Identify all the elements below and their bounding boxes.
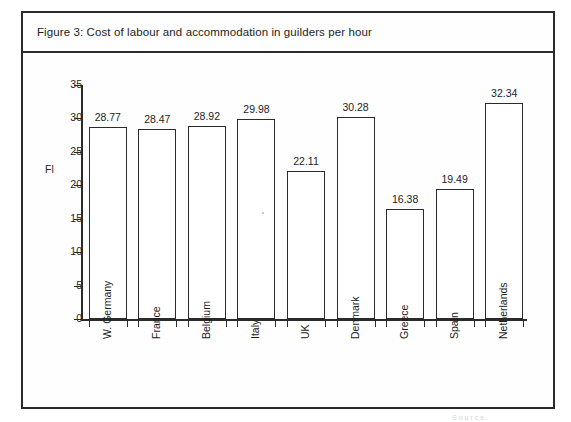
x-tick-mark — [375, 319, 376, 327]
x-category-label: UK — [299, 324, 311, 339]
bar-value-label: 28.47 — [132, 113, 182, 125]
x-category-label: Spain — [448, 312, 460, 339]
x-tick-mark — [176, 319, 177, 327]
bar-value-label: 32.34 — [479, 87, 529, 99]
bar-chart: Fl 05101520253035 28.7728.4728.9229.9822… — [23, 53, 553, 409]
x-tick-mark — [237, 319, 238, 327]
bar[interactable] — [386, 209, 424, 319]
x-tick-mark — [287, 319, 288, 327]
bar-value-label: 28.92 — [182, 110, 232, 122]
x-tick-mark — [485, 319, 486, 327]
bar-value-label: 28.77 — [83, 111, 133, 123]
x-category-label: Belgium — [200, 301, 212, 339]
y-axis-title: Fl — [45, 163, 54, 175]
y-tick-label: 0 — [58, 312, 82, 324]
figure-title-bar: Figure 3: Cost of labour and accommodati… — [23, 13, 553, 53]
scan-artifact-speck — [262, 212, 264, 214]
bar[interactable] — [337, 117, 375, 319]
y-tick-label: 5 — [58, 279, 82, 291]
x-tick-mark — [523, 319, 524, 327]
x-category-label: W. Germany — [101, 281, 113, 339]
y-tick-label: 35 — [58, 78, 82, 90]
x-axis-line — [81, 319, 527, 321]
x-category-label: Netherlands — [497, 282, 509, 339]
bar-value-label: 19.49 — [430, 173, 480, 185]
bar-value-label: 30.28 — [331, 101, 381, 113]
footer-smudge-text: Source — [452, 414, 486, 421]
plot-area: Fl 05101520253035 28.7728.4728.9229.9822… — [23, 53, 553, 409]
bar-value-label: 16.38 — [380, 193, 430, 205]
x-tick-mark — [325, 319, 326, 327]
x-tick-mark — [436, 319, 437, 327]
y-tick-label: 30 — [58, 111, 82, 123]
y-tick-label: 20 — [58, 178, 82, 190]
x-tick-mark — [226, 319, 227, 327]
x-tick-mark — [138, 319, 139, 327]
y-tick-label: 10 — [58, 245, 82, 257]
bar[interactable] — [287, 171, 325, 319]
y-tick-label: 25 — [58, 145, 82, 157]
x-tick-mark — [386, 319, 387, 327]
x-tick-mark — [337, 319, 338, 327]
bar[interactable] — [237, 119, 275, 319]
x-tick-mark — [424, 319, 425, 327]
x-tick-mark — [127, 319, 128, 327]
bar-value-label: 29.98 — [231, 103, 281, 115]
x-tick-mark — [188, 319, 189, 327]
figure-frame: Figure 3: Cost of labour and accommodati… — [21, 11, 555, 409]
x-category-label: Greece — [398, 305, 410, 339]
page-title: Figure 3: Cost of labour and accommodati… — [37, 26, 372, 38]
x-category-label: Italy — [249, 320, 261, 339]
bar[interactable] — [188, 126, 226, 319]
y-tick-label: 15 — [58, 212, 82, 224]
x-tick-mark — [89, 319, 90, 327]
x-category-label: Denmark — [349, 296, 361, 339]
bar-value-label: 22.11 — [281, 155, 331, 167]
x-tick-mark — [474, 319, 475, 327]
bar[interactable] — [436, 189, 474, 319]
x-tick-mark — [275, 319, 276, 327]
bar[interactable] — [138, 129, 176, 319]
x-category-label: France — [150, 306, 162, 339]
